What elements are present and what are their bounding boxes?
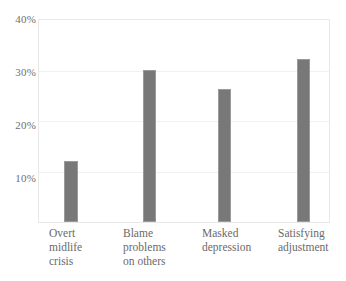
gridline-30	[39, 71, 329, 72]
x-label-overt-midlife-crisis: Overt midlife crisis	[49, 226, 82, 268]
y-axis: 40% 30% 20% 10%	[0, 0, 36, 281]
x-label-masked-depression: Masked depression	[202, 226, 251, 254]
bar-overt-midlife-crisis[interactable]	[64, 161, 78, 222]
bar-masked-depression[interactable]	[218, 89, 231, 222]
x-label-blame-problems-on-others: Blame problems on others	[123, 226, 166, 268]
x-label-satisfying-adjustment: Satisfying adjustment	[278, 226, 328, 254]
y-tick-label-40: 40%	[2, 14, 36, 25]
bar-satisfying-adjustment[interactable]	[297, 59, 310, 222]
y-tick-label-10: 10%	[2, 173, 36, 184]
gridline-20	[39, 121, 329, 122]
gridline-10	[39, 172, 329, 173]
y-tick-label-20: 20%	[2, 120, 36, 131]
y-tick-label-30: 30%	[2, 67, 36, 78]
bar-chart-figure: 40% 30% 20% 10% Overt midlife crisis Bla…	[0, 0, 346, 281]
bar-blame-problems-on-others[interactable]	[143, 70, 156, 223]
x-axis-labels: Overt midlife crisis Blame problems on o…	[38, 226, 330, 281]
plot-area	[38, 19, 330, 223]
